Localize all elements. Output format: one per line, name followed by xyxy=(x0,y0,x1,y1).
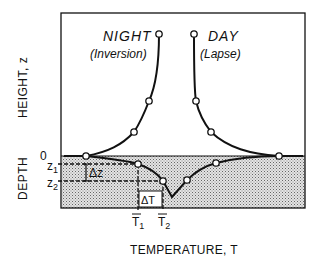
subsurface-point xyxy=(213,160,219,166)
ground-region xyxy=(62,156,305,208)
surface-zero-label: 0 xyxy=(40,149,47,163)
day-point xyxy=(191,31,197,37)
surface-point xyxy=(83,153,89,159)
day-sublabel: (Lapse) xyxy=(200,47,241,61)
delta-t-label: ΔT xyxy=(141,194,155,206)
day-point xyxy=(208,129,214,135)
night-sublabel: (Inversion) xyxy=(90,47,147,61)
surface-point xyxy=(276,153,282,159)
night-label: NIGHT xyxy=(103,28,152,44)
temperature-axis-label: TEMPERATURE, T xyxy=(130,243,238,257)
delta-z-label: Δz xyxy=(89,166,103,180)
t1-label: T1 xyxy=(132,215,144,231)
day-label: DAY xyxy=(208,28,239,44)
night-point xyxy=(146,98,152,104)
day-point xyxy=(193,98,199,104)
subsurface-point xyxy=(184,177,190,183)
subsurface-point xyxy=(135,161,141,167)
night-point xyxy=(156,31,162,37)
temperature-profile-diagram: NIGHT (Inversion) DAY (Lapse) HEIGHT, z … xyxy=(0,0,319,258)
z1-label: z1 xyxy=(47,159,58,175)
t2-label: T2 xyxy=(158,215,170,231)
night-point xyxy=(131,129,137,135)
height-axis-label: HEIGHT, z xyxy=(16,57,30,118)
depth-axis-label: DEPTH xyxy=(16,157,30,200)
subsurface-point xyxy=(160,178,166,184)
z2-label: z2 xyxy=(47,176,58,192)
